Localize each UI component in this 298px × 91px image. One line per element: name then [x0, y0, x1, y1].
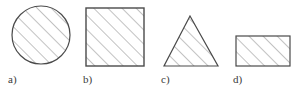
hatched-square-shape [86, 8, 144, 66]
shape-label-c: c) [161, 73, 170, 85]
hatched-triangle-shape [164, 16, 218, 66]
hatched-circle-shape [12, 6, 70, 64]
shape-label-d: d) [233, 73, 242, 85]
figure-canvas: a) b) c) d) [0, 0, 298, 91]
shapes-figure [0, 0, 298, 91]
shape-label-a: a) [8, 73, 17, 85]
shape-label-b: b) [83, 73, 92, 85]
hatched-rectangle-shape [236, 36, 290, 66]
